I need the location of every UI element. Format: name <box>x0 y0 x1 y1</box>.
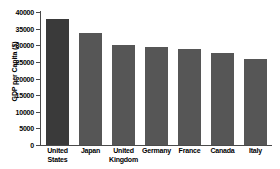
y-tick-label: 5000 <box>19 125 34 132</box>
y-tick-label: 15000 <box>16 92 34 99</box>
y-tick-mark <box>36 62 40 63</box>
y-tick-label: 20000 <box>16 75 34 82</box>
bar <box>46 19 70 145</box>
bar-slot <box>112 12 136 145</box>
bar <box>145 47 169 145</box>
bar-slot <box>79 12 103 145</box>
x-axis-label: Germany <box>140 147 173 156</box>
x-axis-label: Italy <box>239 147 272 156</box>
x-axis-label: Japan <box>74 147 107 156</box>
y-tick-mark <box>36 112 40 113</box>
y-tick-label: 25000 <box>16 58 34 65</box>
y-tick-mark <box>36 45 40 46</box>
y-tick-label: 30000 <box>16 42 34 49</box>
bar <box>211 53 235 145</box>
x-axis-label: France <box>173 147 206 156</box>
x-axis-labels: UnitedStatesJapanUnitedKingdomGermanyFra… <box>41 147 272 169</box>
y-tick-mark <box>36 12 40 13</box>
y-tick-label: 10000 <box>16 108 34 115</box>
bars-container <box>41 12 272 145</box>
x-axis-label: Canada <box>206 147 239 156</box>
x-axis-label: UnitedKingdom <box>107 147 140 164</box>
bar-slot <box>46 12 70 145</box>
y-tick-mark <box>36 95 40 96</box>
bar-slot <box>211 12 235 145</box>
bar <box>244 59 268 145</box>
bar <box>178 49 202 145</box>
bar-slot <box>178 12 202 145</box>
bar <box>112 45 136 145</box>
y-tick-mark <box>36 29 40 30</box>
y-tick-mark <box>36 145 40 146</box>
y-tick-mark <box>36 128 40 129</box>
bar-slot <box>244 12 268 145</box>
y-tick-label: 35000 <box>16 25 34 32</box>
x-axis-label: UnitedStates <box>41 147 74 164</box>
bar-slot <box>145 12 169 145</box>
y-tick-label: 0 <box>30 142 34 149</box>
bar <box>79 33 103 145</box>
y-tick-mark <box>36 79 40 80</box>
y-tick-label: 40000 <box>16 9 34 16</box>
gdp-per-capita-bar-chart: GDP per Capita ($) 400003500030000250002… <box>0 0 280 169</box>
